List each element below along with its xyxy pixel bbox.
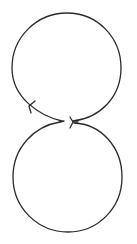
figure-eight-diagram bbox=[0, 0, 137, 244]
diagram-svg bbox=[0, 0, 137, 244]
lower-loop-curve bbox=[13, 122, 122, 232]
junction-right-arrowhead-icon bbox=[70, 117, 78, 128]
upper-loop-curve bbox=[12, 13, 121, 121]
